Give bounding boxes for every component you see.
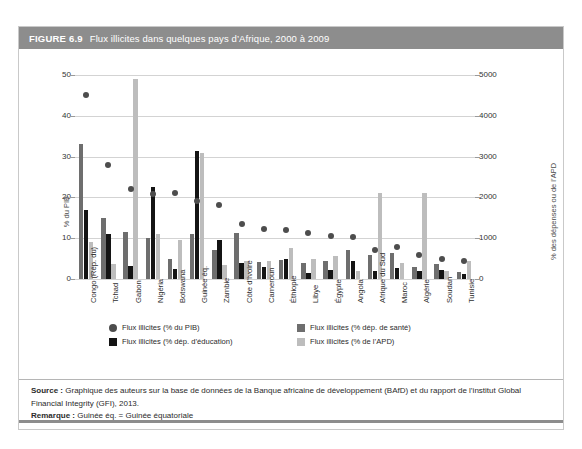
figure-card: FIGURE 6.9 Flux illicites dans quelques … — [18, 26, 564, 430]
bar-group: Cameroun — [253, 75, 275, 279]
figure-number: FIGURE 6.9 — [29, 33, 83, 44]
bar-educ — [106, 234, 110, 279]
bar-group: Afrique du Sud — [364, 75, 386, 279]
bar-sante — [234, 233, 238, 279]
bar-sante — [279, 260, 283, 279]
bar-group: Guinée éq. — [186, 75, 208, 279]
scatter-point-pib — [216, 202, 222, 208]
y-axis-right-tickmark — [475, 116, 480, 117]
bar-educ — [239, 263, 243, 279]
scatter-point-pib — [150, 191, 156, 197]
y-axis-right-tick: 5000 — [479, 70, 523, 79]
bar-sante — [390, 253, 394, 279]
x-axis-label: Soudan — [445, 277, 454, 303]
x-axis-label: Tchad — [111, 283, 120, 303]
y-axis-right-tickmark — [475, 157, 480, 158]
bar-educ — [351, 261, 355, 279]
scatter-point-pib — [283, 227, 289, 233]
bar-sante — [301, 263, 305, 279]
scatter-point-pib — [394, 244, 400, 250]
scatter-point-pib — [128, 186, 134, 192]
bar-apd — [111, 264, 115, 279]
bar-educ — [417, 271, 421, 279]
legend-item-pib: Flux illicites (% du PIB) — [109, 323, 297, 332]
x-axis-label: Éthiopie — [289, 276, 298, 303]
bar-sante — [257, 262, 261, 279]
scatter-point-pib — [305, 230, 311, 236]
bar-group: Côte d’Ivoire — [231, 75, 253, 279]
bar-sante — [146, 238, 150, 279]
bar-educ — [439, 270, 443, 279]
bar-apd — [133, 79, 137, 279]
legend-item-sante: Flux illicites (% dép. de santé) — [297, 323, 411, 332]
bar-sante — [412, 267, 416, 279]
bar-educ — [306, 273, 310, 279]
x-axis-label: Gabon — [134, 280, 143, 303]
bar-apd — [200, 153, 204, 279]
bar-educ — [395, 268, 399, 279]
bar-group: Zambie — [208, 75, 230, 279]
bar-sante — [101, 218, 105, 279]
bar-educ — [373, 271, 377, 279]
scatter-point-pib — [83, 92, 89, 98]
x-axis-label: Maroc — [400, 282, 409, 303]
bar-group: Tchad — [97, 75, 119, 279]
legend-label: Flux illicites (% dép. de santé) — [310, 323, 411, 332]
y-axis-left-tick: 30 — [31, 152, 71, 161]
x-axis-label: Nigéria — [156, 279, 165, 303]
scatter-point-pib — [350, 234, 356, 240]
legend-label: Flux illicites (% dép. d’éducation) — [122, 337, 233, 346]
bar-educ — [462, 274, 466, 279]
legend-swatch-square-icon — [297, 338, 305, 346]
bar-apd — [289, 248, 293, 279]
y-axis-right-label: % des dépenses ou de l’APD — [549, 163, 558, 260]
footer-rule — [19, 420, 563, 423]
bar-sante — [123, 232, 127, 279]
bar-group: Gabon — [119, 75, 141, 279]
legend-swatch-dot-icon — [109, 324, 117, 332]
y-axis-right-tickmark — [475, 238, 480, 239]
bar-group: Angola — [342, 75, 364, 279]
legend-label: Flux illicites (% du PIB) — [122, 323, 200, 332]
bar-group: Nigéria — [142, 75, 164, 279]
bar-group: Égypte — [319, 75, 341, 279]
y-axis-right-tick: 2000 — [479, 192, 523, 201]
bar-educ — [284, 259, 288, 279]
figure-title-bar: FIGURE 6.9 Flux illicites dans quelques … — [19, 27, 563, 49]
chart-canvas: 00101000202000303000404000505000Congo (R… — [75, 75, 475, 279]
bar-sante — [190, 234, 194, 279]
bar-apd — [156, 234, 160, 279]
bar-group: Libye — [297, 75, 319, 279]
y-axis-left-tick: 40 — [31, 111, 71, 120]
bar-group: Maroc — [386, 75, 408, 279]
scatter-point-pib — [439, 256, 445, 262]
bar-apd — [467, 261, 471, 279]
y-axis-left-tick: 0 — [31, 274, 71, 283]
chart-legend: Flux illicites (% du PIB) Flux illicites… — [109, 323, 479, 351]
source-text: Graphique des auteurs sur la base de don… — [31, 386, 521, 408]
y-axis-right-tickmark — [475, 197, 480, 198]
bar-sante — [434, 264, 438, 279]
y-axis-right-tick: 3000 — [479, 152, 523, 161]
scatter-point-pib — [328, 233, 334, 239]
source-label: Source : — [31, 386, 63, 395]
bar-apd — [356, 271, 360, 279]
footer-source: Source : Graphique des auteurs sur la ba… — [31, 385, 551, 410]
legend-item-education: Flux illicites (% dép. d’éducation) — [109, 337, 297, 346]
scatter-point-pib — [261, 226, 267, 232]
y-axis-right-tick: 0 — [479, 274, 523, 283]
x-axis-label: Tunisie — [467, 279, 476, 303]
bar-group: Tunisie — [453, 75, 475, 279]
legend-row: Flux illicites (% dép. d’éducation) Flux… — [109, 337, 479, 346]
y-axis-left-tick: 50 — [31, 70, 71, 79]
bar-sante — [79, 144, 83, 279]
x-axis-label: Zambie — [222, 278, 231, 303]
bar-educ — [195, 151, 199, 279]
bar-sante — [212, 250, 216, 279]
figure-footer: Source : Graphique des auteurs sur la ba… — [19, 379, 563, 423]
y-axis-left-tick: 20 — [31, 192, 71, 201]
y-axis-right-tickmark — [475, 75, 480, 76]
scatter-point-pib — [105, 162, 111, 168]
bar-educ — [151, 187, 155, 279]
bar-group: Algérie — [408, 75, 430, 279]
